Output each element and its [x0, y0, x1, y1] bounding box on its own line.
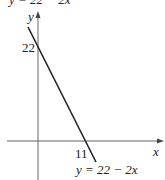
y-intercept-label: 22: [22, 41, 35, 54]
y-axis-arrow-icon: [36, 11, 41, 18]
y-axis-label: y: [28, 10, 34, 23]
x-intercept-label: 11: [75, 147, 88, 160]
line-label: y = 22 − 2x: [76, 163, 138, 176]
x-axis-label: x: [153, 145, 159, 158]
x-axis-arrow-icon: [157, 139, 164, 144]
top-caption: y = 22 − 2x: [9, 0, 71, 6]
